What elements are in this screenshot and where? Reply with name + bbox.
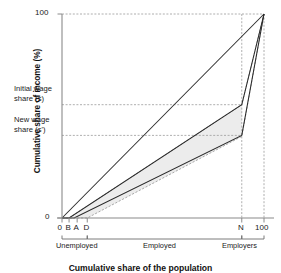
x-tick-label-D: D <box>84 223 90 232</box>
initial-wage-share-label-line2: share (s) <box>14 94 52 104</box>
group-label-unemployed: Unemployed <box>56 241 98 250</box>
chart-canvas <box>0 0 281 273</box>
group-bracket-unemployed <box>62 236 87 240</box>
x-tick-label-N: N <box>238 223 244 232</box>
group-bracket-employed <box>87 236 242 240</box>
initial-wage-share-label: Initial wage share (s) <box>14 84 52 103</box>
new-wage-share-label: New wage share (s') <box>14 115 49 134</box>
x-axis-title: Cumulative share of the population <box>0 263 281 273</box>
y-axis-title: Cumulative share of income (%) <box>32 11 42 211</box>
group-label-employed: Employed <box>143 241 176 250</box>
x-tick-label-100: 100 <box>255 223 268 232</box>
x-tick-label-B: B <box>66 223 71 232</box>
initial-wage-share-label-line1: Initial wage <box>14 84 52 94</box>
lorenz-curve-figure: Cumulative share of income (%) Cumulativ… <box>0 0 281 273</box>
y-tick-label-100: 100 <box>35 8 48 17</box>
group-bracket-employers <box>242 236 264 240</box>
new-wage-share-label-line2: share (s') <box>14 125 49 135</box>
group-label-employers: Employers <box>222 241 257 250</box>
x-tick-label-A: A <box>74 223 79 232</box>
new-wage-share-label-line1: New wage <box>14 115 49 125</box>
x-tick-label-0: 0 <box>58 223 62 232</box>
y-tick-label-0: 0 <box>45 212 49 221</box>
